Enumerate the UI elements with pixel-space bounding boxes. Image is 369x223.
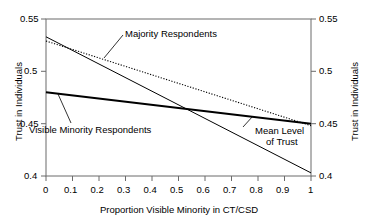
x-tick-label-02: 0.2 bbox=[91, 184, 104, 195]
y-left-tick-label-05: 0.5 bbox=[24, 65, 37, 76]
annotation-majority-respondents: Majority Respondents bbox=[125, 28, 217, 39]
y-axis-right-title: Trust in Individuals bbox=[349, 32, 360, 172]
x-tick-label-04: 0.4 bbox=[144, 184, 157, 195]
x-tick-label-03: 0.3 bbox=[117, 184, 130, 195]
y-left-tick-label-055: 0.55 bbox=[20, 13, 39, 24]
x-ticks bbox=[46, 176, 311, 181]
chart-figure: 0.55 0.5 0.45 0.4 0.55 0.5 0.45 0.4 0 0.… bbox=[0, 0, 369, 223]
series-line-visible-minority-respondents bbox=[46, 92, 311, 123]
y-right-tick-label-04: 0.4 bbox=[319, 170, 332, 181]
x-tick-label-07: 0.7 bbox=[223, 184, 236, 195]
x-tick-label-1: 1 bbox=[308, 184, 313, 195]
annotation-mean-level-of-trust-line2: of Trust bbox=[266, 136, 298, 147]
y-right-tick-label-055: 0.55 bbox=[319, 13, 338, 24]
x-tick-label-05: 0.5 bbox=[170, 184, 183, 195]
y-left-tick-label-04: 0.4 bbox=[24, 170, 37, 181]
y-right-ticks bbox=[311, 19, 316, 176]
leader-line-majority-respondents bbox=[104, 35, 123, 58]
y-right-tick-label-05: 0.5 bbox=[319, 65, 332, 76]
x-tick-label-08: 0.8 bbox=[250, 184, 263, 195]
annotation-visible-minority-respondents: Visible Minority Respondents bbox=[29, 124, 151, 135]
x-axis-title: Proportion Visible Minority in CT/CSD bbox=[46, 204, 312, 215]
y-left-ticks bbox=[41, 19, 46, 176]
x-tick-label-06: 0.6 bbox=[197, 184, 210, 195]
leader-line-visible-minority-respondents bbox=[58, 94, 71, 123]
x-tick-label-0: 0 bbox=[43, 184, 48, 195]
series-line-mean-level-of-trust bbox=[46, 41, 311, 126]
y-axis-left-title: Trust in Individuals bbox=[13, 32, 24, 172]
series-line-majority-respondents bbox=[46, 37, 311, 173]
x-tick-label-01: 0.1 bbox=[64, 184, 77, 195]
x-tick-label-09: 0.9 bbox=[276, 184, 289, 195]
annotation-mean-level-of-trust-line1: Mean Level bbox=[255, 125, 304, 136]
leader-line-mean-level-of-trust bbox=[243, 116, 253, 127]
y-right-tick-label-045: 0.45 bbox=[319, 118, 338, 129]
